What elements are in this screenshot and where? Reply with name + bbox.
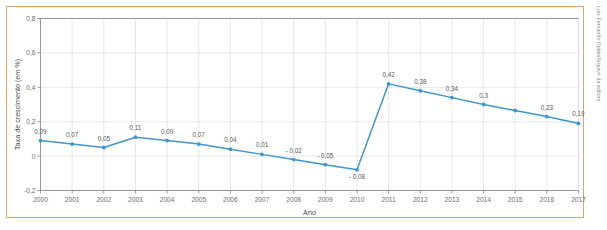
x-tick-label: 2000 bbox=[33, 196, 48, 203]
y-tick-label: -0,2 bbox=[24, 187, 36, 194]
data-point-label: 0,3 bbox=[479, 92, 488, 99]
y-tick-label: 0,6 bbox=[26, 49, 35, 56]
series-point bbox=[70, 142, 74, 146]
data-point-label: 0,42 bbox=[382, 71, 395, 78]
data-point-label: 0,38 bbox=[414, 78, 427, 85]
x-tick-label: 2010 bbox=[350, 196, 365, 203]
series-point bbox=[513, 109, 517, 113]
y-tick-label: 0,2 bbox=[26, 118, 35, 125]
series-point bbox=[323, 163, 327, 167]
x-tick-label: 2009 bbox=[318, 196, 333, 203]
image-credit-text: Luiz Fernando Rubio/Arquivo da editora bbox=[596, 6, 602, 102]
x-tick-label: 2001 bbox=[65, 196, 80, 203]
data-point-label: 0,23 bbox=[541, 104, 554, 111]
data-point-label: 0,05 bbox=[98, 135, 111, 142]
y-tick-label: 0 bbox=[32, 153, 36, 160]
data-point-label: - 0,05 bbox=[317, 152, 334, 159]
x-tick-label: 2015 bbox=[508, 196, 523, 203]
data-point-label: 0,07 bbox=[193, 131, 206, 138]
series-point bbox=[197, 142, 201, 146]
x-tick-label: 2002 bbox=[96, 196, 111, 203]
series-point bbox=[418, 89, 422, 93]
y-tick-label: 0,8 bbox=[26, 15, 35, 22]
series-point bbox=[450, 96, 454, 100]
x-tick-label: 2016 bbox=[540, 196, 555, 203]
x-tick-label: 2014 bbox=[476, 196, 491, 203]
series-point bbox=[387, 82, 391, 86]
series-point bbox=[355, 168, 359, 172]
data-point-label: 0,01 bbox=[256, 141, 269, 148]
series-point bbox=[102, 146, 106, 150]
data-point-label: 0,07 bbox=[66, 131, 79, 138]
data-point-label: 0,04 bbox=[224, 136, 237, 143]
chart-plot-wrapper: -0,200,20,40,60,820002001200220032004200… bbox=[0, 0, 607, 230]
series-point bbox=[165, 139, 169, 143]
x-tick-label: 2011 bbox=[382, 196, 397, 203]
series-point bbox=[482, 103, 486, 107]
series-point bbox=[260, 152, 264, 156]
series-line-growth-rate bbox=[41, 84, 579, 170]
y-tick-label: 0,4 bbox=[26, 84, 35, 91]
x-tick-label: 2017 bbox=[571, 196, 586, 203]
chart-figure: -0,200,20,40,60,820002001200220032004200… bbox=[0, 0, 607, 230]
series-point bbox=[39, 139, 43, 143]
data-point-label: 0,09 bbox=[161, 128, 174, 135]
x-axis-title: Ano bbox=[303, 208, 316, 217]
x-tick-label: 2013 bbox=[445, 196, 460, 203]
x-tick-label: 2012 bbox=[413, 196, 428, 203]
x-tick-label: 2007 bbox=[255, 196, 270, 203]
x-tick-label: 2004 bbox=[160, 196, 175, 203]
x-tick-label: 2005 bbox=[191, 196, 206, 203]
series-point bbox=[292, 158, 296, 162]
x-tick-label: 2003 bbox=[128, 196, 143, 203]
y-axis-title: Taxa de crescimento (em %) bbox=[13, 59, 22, 150]
data-point-label: - 0,02 bbox=[286, 147, 303, 154]
image-credit: Luiz Fernando Rubio/Arquivo da editora bbox=[592, 4, 606, 204]
series-point bbox=[134, 135, 138, 139]
series-point bbox=[228, 147, 232, 151]
series-point bbox=[577, 122, 581, 126]
data-point-label: 0,09 bbox=[34, 128, 47, 135]
data-point-label: 0,19 bbox=[572, 110, 585, 117]
x-tick-label: 2008 bbox=[286, 196, 301, 203]
line-chart-svg: -0,200,20,40,60,820002001200220032004200… bbox=[0, 0, 607, 230]
data-point-label: 0,34 bbox=[446, 85, 459, 92]
x-tick-label: 2006 bbox=[223, 196, 238, 203]
data-point-label: - 0,08 bbox=[349, 173, 366, 180]
series-point bbox=[545, 115, 549, 119]
data-point-label: 0,11 bbox=[130, 124, 142, 131]
